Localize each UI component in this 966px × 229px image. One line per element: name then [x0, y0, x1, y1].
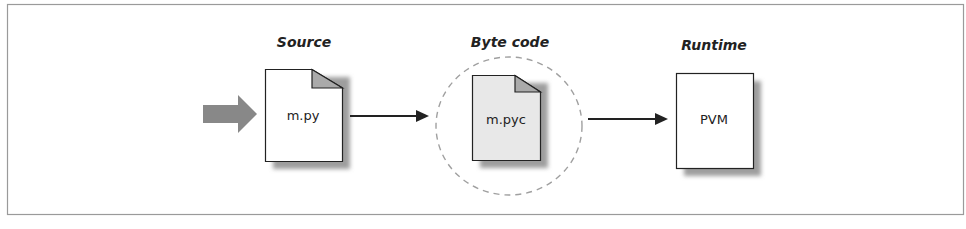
heading-source: Source: [277, 34, 331, 50]
python-execution-diagram: Source m.py Byte code m.pyc Runtime PVM: [0, 0, 966, 229]
file-label-source: m.py: [287, 108, 320, 123]
connector-arrow-2: [588, 113, 668, 125]
connector-arrow-1: [350, 110, 429, 122]
heading-runtime: Runtime: [681, 37, 747, 53]
heading-bytecode: Byte code: [471, 34, 549, 50]
input-arrow-icon: [203, 95, 257, 133]
file-label-bytecode: m.pyc: [486, 112, 526, 127]
label-pvm: PVM: [700, 112, 728, 127]
